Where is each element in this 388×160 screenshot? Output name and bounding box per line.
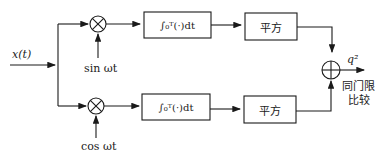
- cos-reference-label: cos ωt: [81, 141, 116, 152]
- sin-reference-label: sin ωt: [84, 63, 117, 74]
- threshold-note-line2: 比较: [348, 95, 370, 106]
- bottom-integrator-label: ∫₀ᵀ(·)dt: [142, 94, 210, 120]
- top-square-label: 平方: [245, 13, 297, 40]
- output-label: q²: [347, 54, 358, 65]
- top-integrator-label: ∫₀ᵀ(·)dt: [144, 12, 211, 38]
- threshold-note-line1: 同门限: [342, 81, 375, 92]
- input-label: x(t): [12, 49, 31, 60]
- bottom-square-label: 平方: [244, 96, 296, 123]
